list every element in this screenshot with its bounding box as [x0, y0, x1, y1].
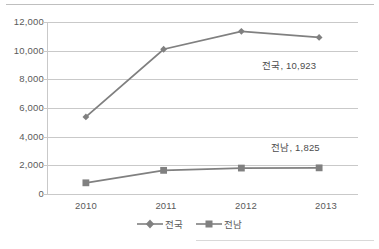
data-point-1-3[interactable] — [316, 164, 323, 171]
legend-label-national: 전국 — [165, 219, 183, 230]
y-axis-label-0: 0 — [0, 189, 44, 199]
y-axis-label-8000: 8,000 — [0, 74, 44, 84]
y-axis-label-2000: 2,000 — [0, 160, 44, 170]
data-point-1-2[interactable] — [238, 165, 245, 172]
data-point-0-3[interactable] — [316, 34, 323, 41]
y-axis-label-10000: 10,000 — [0, 46, 44, 56]
y-tick-0 — [43, 194, 47, 195]
legend-label-jeonnam: 전남 — [224, 219, 242, 230]
plot-area — [47, 22, 358, 194]
x-axis-label-2011: 2011 — [136, 200, 196, 211]
x-axis-label-2010: 2010 — [56, 200, 116, 211]
x-axis-label-2013: 2013 — [296, 200, 356, 211]
legend-item-jeonnam[interactable]: 전남 — [196, 218, 242, 230]
y-axis-label-4000: 4,000 — [0, 132, 44, 142]
series-graphics — [47, 22, 358, 194]
chart-legend: 전국 전남 — [0, 218, 379, 230]
data-label-jeonnam: 전남, 1,825 — [271, 142, 320, 153]
diamond-marker-icon — [137, 218, 163, 230]
legend-item-national[interactable]: 전국 — [137, 218, 183, 230]
top-divider — [6, 4, 374, 5]
series-line-0 — [86, 31, 319, 117]
y-axis-label-12000: 12,000 — [0, 17, 44, 27]
x-axis-label-2012: 2012 — [216, 200, 276, 211]
line-chart: 12,000 10,000 8,000 6,000 4,000 2,000 0 … — [0, 0, 379, 249]
data-point-1-1[interactable] — [160, 167, 167, 174]
data-point-0-2[interactable] — [238, 28, 245, 35]
bottom-divider — [196, 240, 374, 241]
square-marker-icon — [196, 218, 222, 230]
data-label-national: 전국, 10,923 — [262, 60, 316, 71]
gridline-0 — [47, 194, 358, 195]
data-point-1-0[interactable] — [82, 179, 89, 186]
series-line-1 — [86, 168, 319, 183]
y-axis-label-6000: 6,000 — [0, 103, 44, 113]
